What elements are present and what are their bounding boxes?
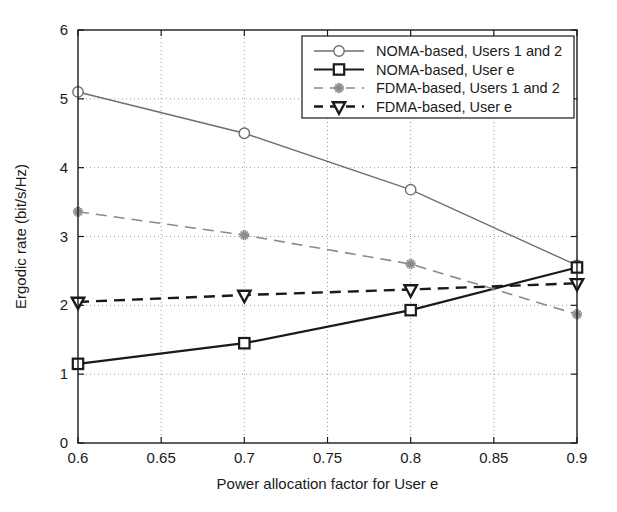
data-marker-circle xyxy=(405,184,415,194)
xtick-label-0: 0.6 xyxy=(68,449,89,466)
legend-label-2: FDMA-based, Users 1 and 2 xyxy=(376,80,560,96)
data-marker-square xyxy=(405,305,415,315)
ytick-label-1: 1 xyxy=(60,365,68,382)
data-marker-circle xyxy=(334,46,344,56)
xtick-label-3: 0.75 xyxy=(313,449,342,466)
data-marker-square xyxy=(334,64,344,74)
data-marker-circle xyxy=(239,128,249,138)
xtick-label-2: 0.7 xyxy=(234,449,255,466)
legend-label-1: NOMA-based, User e xyxy=(376,62,515,78)
ytick-label-6: 6 xyxy=(60,21,68,38)
ytick-label-3: 3 xyxy=(60,228,68,245)
y-axis-title: Ergodic rate (bit/s/Hz) xyxy=(12,164,29,309)
xtick-label-5: 0.85 xyxy=(479,449,508,466)
data-marker-square xyxy=(239,338,249,348)
legend-label-0: NOMA-based, Users 1 and 2 xyxy=(376,43,562,59)
xtick-label-6: 0.9 xyxy=(567,449,588,466)
ytick-label-5: 5 xyxy=(60,90,68,107)
ergodic-rate-line-chart: 0.60.650.70.750.80.850.90123456Power all… xyxy=(0,0,617,512)
ytick-label-4: 4 xyxy=(60,159,68,176)
xtick-label-1: 0.65 xyxy=(147,449,176,466)
chart-figure: 0.60.650.70.750.80.850.90123456Power all… xyxy=(0,0,617,512)
ytick-label-2: 2 xyxy=(60,296,68,313)
x-axis-title: Power allocation factor for User e xyxy=(217,475,439,492)
legend-label-3: FDMA-based, User e xyxy=(376,99,512,115)
xtick-label-4: 0.8 xyxy=(400,449,421,466)
ytick-label-0: 0 xyxy=(60,434,68,451)
